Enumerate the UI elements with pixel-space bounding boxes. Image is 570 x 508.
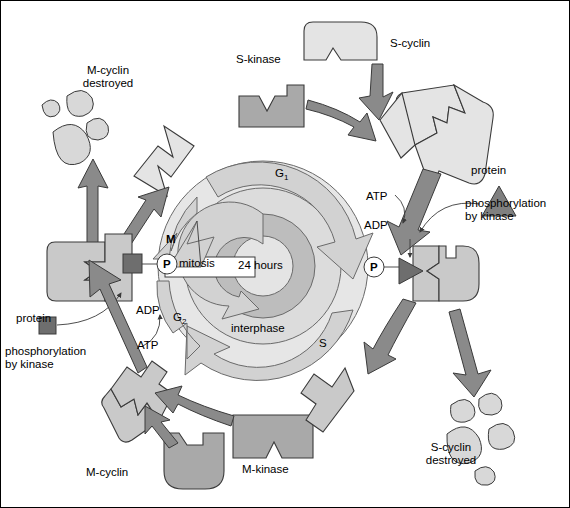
s-cyclin-fragments [447,393,515,485]
label-m-cyclin: M-cyclin [86,466,128,479]
label-atp-left: ATP [137,339,159,352]
g2-letter: G [173,311,182,323]
arrow-s-cyclin-destroyed [449,309,491,397]
label-adp-left: ADP [136,304,160,317]
label-m-cyclin-destroyed: M-cyclin destroyed [72,64,144,90]
m-cyclin-fragments [42,90,109,164]
figure-canvas: .kin{fill:#a9a9a9;stroke:#3a3a3a;stroke-… [0,0,570,508]
label-phase-m: M [166,233,176,246]
label-interphase: interphase [231,322,285,335]
g1-subscript: 1 [284,173,288,182]
s-cyclin-shape [304,22,377,60]
arrow-phosphorylate-s [387,169,441,255]
m-kinase-shape [233,415,313,458]
label-phosphorylation-left: phosphorylation by kinase [5,345,86,371]
label-p-right: P [370,261,378,274]
label-24-hours: 24 hours [238,259,283,272]
g2-subscript: 2 [182,317,186,326]
s-kinase-shape [239,85,304,127]
label-atp-right: ATP [366,190,388,203]
m-kinase-released [134,126,194,196]
label-s-kinase: S-kinase [236,53,281,66]
label-phase-g1: G1 [275,167,288,184]
label-adp-right: ADP [364,219,388,232]
arrow-s-kinase-join [306,100,376,141]
label-protein-left: protein [16,312,51,325]
s-kinase-released [301,368,354,432]
label-phase-g2: G2 [173,311,186,328]
label-phosphorylation-right: phosphorylation by kinase [465,197,546,223]
s-complex-phosphorylated [364,246,479,301]
label-m-kinase: M-kinase [242,463,289,476]
arrow-s-kinase-released [364,299,416,374]
label-protein-right: protein [471,164,506,177]
label-phase-s: S [319,337,327,350]
label-s-cyclin: S-cyclin [390,37,430,50]
label-p-left: P [163,258,171,271]
label-mitosis: mitosis [179,257,215,270]
label-s-cyclin-destroyed: S-cyclin destroyed [415,441,487,467]
g1-letter: G [275,167,284,179]
arrow-m-cyclin-destroyed [78,159,108,249]
